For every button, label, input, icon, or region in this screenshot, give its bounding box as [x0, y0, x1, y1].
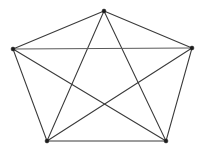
- figure-background: [0, 0, 204, 158]
- vertex-top: [102, 9, 106, 13]
- vertex-right: [190, 46, 194, 50]
- k5-graph: [0, 0, 204, 158]
- vertex-left: [11, 47, 15, 51]
- figure-canvas: [0, 0, 204, 158]
- vertex-bottom-left: [45, 139, 49, 143]
- vertex-bottom-right: [164, 139, 168, 143]
